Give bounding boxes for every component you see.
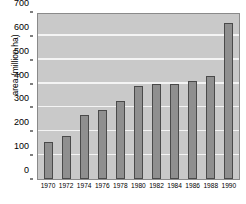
bar[interactable] <box>116 101 125 179</box>
y-axis-tick-mark <box>30 12 33 13</box>
x-axis-tick-label: 1982 <box>149 182 165 189</box>
bar[interactable] <box>62 136 71 179</box>
y-axis-tick-label: 600 <box>14 22 29 32</box>
y-axis-tick-mark <box>30 35 33 36</box>
plot-area <box>37 13 240 180</box>
y-axis-tick-labels: 0100200300400500600700 <box>0 13 33 180</box>
bar[interactable] <box>224 23 233 179</box>
y-axis-tick-label: 0 <box>24 165 29 175</box>
x-axis-tick-label: 1974 <box>76 182 92 189</box>
y-axis-tick-label: 400 <box>14 70 29 80</box>
y-axis-tick-mark <box>30 59 33 60</box>
x-axis-tick-label: 1972 <box>58 182 74 189</box>
x-axis-tick-label: 1976 <box>94 182 110 189</box>
x-axis-tick-label: 1990 <box>221 182 237 189</box>
bar[interactable] <box>170 84 179 179</box>
bar[interactable] <box>44 142 53 179</box>
bar[interactable] <box>80 115 89 179</box>
x-axis-tick-labels: 1970197219741976197819801982198419861988… <box>37 182 240 202</box>
bar[interactable] <box>134 86 143 179</box>
bar[interactable] <box>98 110 107 179</box>
y-axis-tick-label: 100 <box>14 141 29 151</box>
x-axis-tick-label: 1988 <box>203 182 219 189</box>
bar[interactable] <box>188 81 197 179</box>
x-axis-tick-label: 1970 <box>40 182 56 189</box>
x-axis-tick-label: 1978 <box>112 182 128 189</box>
y-axis-tick-label: 300 <box>14 93 29 103</box>
y-axis-tick-mark <box>30 107 33 108</box>
bar[interactable] <box>206 76 215 179</box>
x-axis-tick-label: 1986 <box>185 182 201 189</box>
y-axis-tick-label: 500 <box>14 46 29 56</box>
y-axis-tick-mark <box>30 179 33 180</box>
x-axis-tick-label: 1980 <box>130 182 146 189</box>
bar-chart: area (million ha) 0100200300400500600700… <box>0 0 246 204</box>
y-axis-tick-mark <box>30 131 33 132</box>
y-axis-tick-label: 700 <box>14 0 29 8</box>
y-axis-tick-label: 200 <box>14 117 29 127</box>
x-axis-tick-label: 1984 <box>167 182 183 189</box>
bar[interactable] <box>152 84 161 179</box>
bars-container <box>38 14 239 179</box>
y-axis-tick-mark <box>30 155 33 156</box>
y-axis-tick-mark <box>30 83 33 84</box>
